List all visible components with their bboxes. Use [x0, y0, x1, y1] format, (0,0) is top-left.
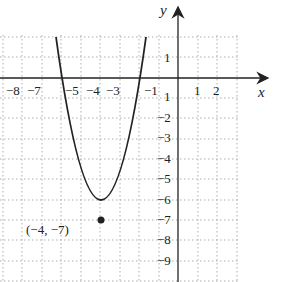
grid [0, 35, 240, 282]
vertex-point [98, 217, 105, 224]
svg-text:−7: −7 [157, 212, 171, 227]
svg-text:−3: −3 [106, 83, 120, 98]
svg-text:−5: −5 [65, 83, 79, 98]
x-axis-label: x [257, 84, 265, 100]
svg-text:−4: −4 [86, 83, 100, 98]
svg-text:−3: −3 [157, 130, 171, 145]
y-tick-labels: 1 1 −2 −3 −4 −5 −6 −7 −8 −9 [157, 50, 171, 268]
svg-text:−5: −5 [157, 171, 171, 186]
svg-text:−8: −8 [157, 232, 171, 247]
svg-text:−9: −9 [157, 253, 171, 268]
svg-text:−4: −4 [157, 151, 171, 166]
svg-text:1: 1 [194, 83, 201, 98]
x-tick-labels: −8 −7 −5 −4 −3 −1 1 2 [6, 83, 220, 98]
svg-text:−8: −8 [6, 83, 20, 98]
parabola-curve [56, 37, 146, 200]
svg-text:−6: −6 [157, 192, 171, 207]
svg-text:−2: −2 [157, 110, 171, 125]
svg-text:−1: −1 [144, 83, 158, 98]
svg-text:1: 1 [164, 50, 171, 65]
y-axis-label: y [158, 2, 167, 18]
svg-text:1: 1 [164, 89, 171, 104]
chart: x y −8 −7 −5 −4 −3 −1 1 2 1 1 −2 −3 −4 −… [0, 0, 283, 282]
vertex-label: (−4, −7) [26, 222, 69, 237]
svg-text:2: 2 [213, 83, 220, 98]
axes [0, 7, 268, 282]
svg-text:−7: −7 [27, 83, 41, 98]
